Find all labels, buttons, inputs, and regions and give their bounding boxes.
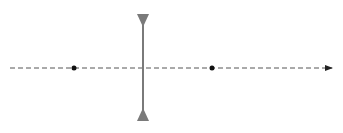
diagram-canvas: [0, 0, 343, 133]
focal-point-right: [210, 66, 215, 71]
lens-top-arrow-icon: [137, 14, 149, 27]
lens-diagram: [0, 0, 343, 133]
lens-bottom-arrow-icon: [137, 108, 149, 121]
focal-point-left: [72, 66, 77, 71]
